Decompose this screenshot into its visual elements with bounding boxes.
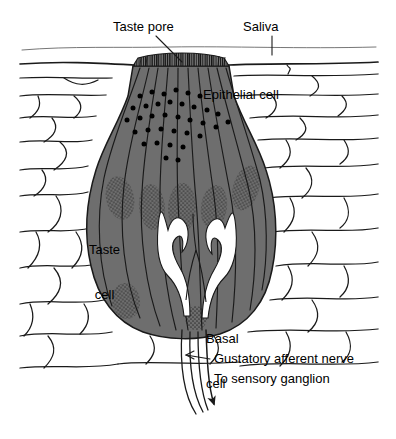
label-taste-cell-line1: Taste — [89, 242, 120, 257]
label-basal-cell-line1: Basal — [206, 331, 239, 346]
label-taste-cell: Taste cell — [89, 212, 120, 332]
taste-bud-diagram: Taste pore Saliva Epithelial cell Taste … — [0, 0, 396, 439]
label-to-sensory-ganglion: To sensory ganglion — [214, 372, 330, 386]
diagram-canvas — [0, 0, 396, 439]
nerve-fiber — [190, 332, 203, 412]
taste-pore — [133, 53, 229, 66]
label-taste-pore: Taste pore — [113, 20, 174, 34]
label-saliva: Saliva — [243, 20, 278, 34]
taste-pore-plug — [133, 53, 229, 66]
label-epithelial-cell: Epithelial cell — [203, 88, 279, 102]
nerve-fiber — [181, 330, 196, 414]
saliva-surface-line — [22, 47, 376, 50]
label-taste-cell-line2: cell — [89, 287, 120, 302]
label-gustatory-afferent-nerve: Gustatory afferent nerve — [214, 352, 354, 366]
